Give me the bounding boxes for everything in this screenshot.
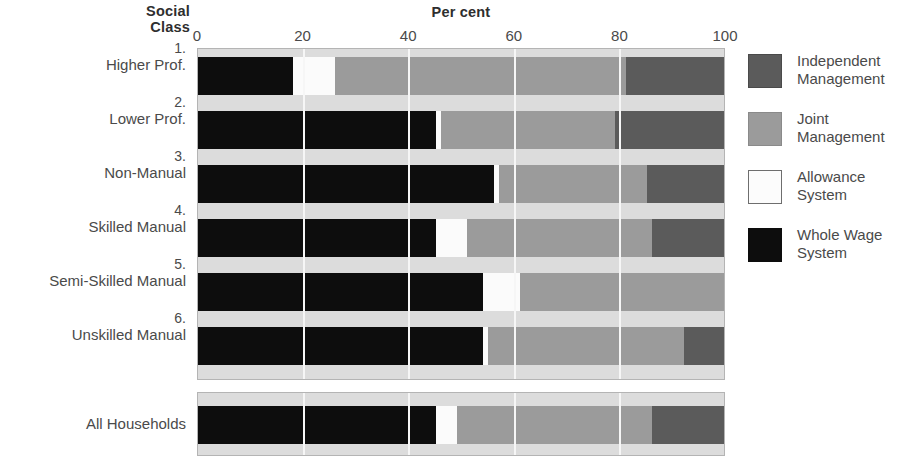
legend-label-indep-line2: Management xyxy=(797,70,907,88)
legend-label-joint-line1: Joint xyxy=(797,110,907,128)
legend-item-whole[interactable]: Whole WageSystem xyxy=(748,224,907,282)
row-number-6: 6. xyxy=(0,310,186,326)
legend-item-joint[interactable]: JointManagement xyxy=(748,108,907,166)
bar-unskilled-manual xyxy=(198,327,724,365)
allowance-swatch xyxy=(748,170,782,204)
whole-wage-segment xyxy=(198,111,436,149)
joint-management-segment xyxy=(520,273,725,311)
row-name-2: Lower Prof. xyxy=(109,110,186,127)
allowance-segment xyxy=(436,219,468,257)
independent-management-segment xyxy=(652,406,725,444)
bar-all-households xyxy=(198,406,724,444)
row-label-3: 3.Non-Manual xyxy=(0,148,186,182)
legend-label-whole-line2: System xyxy=(797,244,907,262)
row-number-4: 4. xyxy=(0,202,186,218)
row-name-1: Higher Prof. xyxy=(106,56,186,73)
legend-label-joint: JointManagement xyxy=(797,110,907,145)
independent-management-segment xyxy=(615,111,725,149)
joint-management-segment xyxy=(457,406,652,444)
allowance-segment xyxy=(293,57,335,95)
row-label-2: 2.Lower Prof. xyxy=(0,94,186,128)
row-name-6: Unskilled Manual xyxy=(72,326,186,343)
legend-item-allow[interactable]: AllowanceSystem xyxy=(748,166,907,224)
independent-management-segment xyxy=(647,165,725,203)
bar-higher-prof xyxy=(198,57,724,95)
row-number-3: 3. xyxy=(0,148,186,164)
legend-label-indep: IndependentManagement xyxy=(797,52,907,87)
joint-management-segment xyxy=(488,327,683,365)
legend-label-whole-line1: Whole Wage xyxy=(797,226,907,244)
legend-label-allow-line1: Allowance xyxy=(797,168,907,186)
x-tick-40: 40 xyxy=(400,27,417,44)
legend-label-indep-line1: Independent xyxy=(797,52,907,70)
independent-management-segment xyxy=(652,219,725,257)
x-tick-100: 100 xyxy=(712,27,737,44)
social-class-heading-line1: Social xyxy=(146,3,190,19)
main-plot-panel xyxy=(197,48,725,380)
legend-label-joint-line2: Management xyxy=(797,128,907,146)
row-name-3: Non-Manual xyxy=(104,164,186,181)
allowance-segment xyxy=(483,273,520,311)
whole-wage-segment xyxy=(198,406,436,444)
chart-legend: IndependentManagementJointManagementAllo… xyxy=(748,50,907,282)
allowance-segment xyxy=(436,406,457,444)
legend-item-indep[interactable]: IndependentManagement xyxy=(748,50,907,108)
row-label-5: 5.Semi-Skilled Manual xyxy=(0,256,186,290)
row-name-5: Semi-Skilled Manual xyxy=(49,272,186,289)
whole-wage-segment xyxy=(198,165,494,203)
whole-wage-segment xyxy=(198,57,293,95)
row-number-1: 1. xyxy=(0,40,186,56)
row-label-6: 6.Unskilled Manual xyxy=(0,310,186,344)
row-name-all-households: All Households xyxy=(86,415,186,432)
bar-skilled-manual xyxy=(198,219,724,257)
joint-management-segment xyxy=(441,111,615,149)
row-name-4: Skilled Manual xyxy=(88,218,186,235)
legend-label-allow-line2: System xyxy=(797,186,907,204)
row-label-all-households: All Households xyxy=(0,415,186,433)
bar-lower-prof xyxy=(198,111,724,149)
legend-label-allow: AllowanceSystem xyxy=(797,168,907,203)
x-tick-60: 60 xyxy=(505,27,522,44)
joint-management-segment xyxy=(467,219,652,257)
social-class-heading: Social Class xyxy=(60,4,190,35)
joint-swatch xyxy=(748,112,782,146)
independent-management-segment xyxy=(626,57,725,95)
bar-semi-skilled-manual xyxy=(198,273,724,311)
whole-wage-swatch xyxy=(748,228,782,262)
x-axis-title: Per cent xyxy=(197,4,725,20)
whole-wage-segment xyxy=(198,327,483,365)
row-label-1: 1.Higher Prof. xyxy=(0,40,186,74)
joint-management-segment xyxy=(335,57,625,95)
whole-wage-segment xyxy=(198,273,483,311)
whole-wage-segment xyxy=(198,219,436,257)
x-tick-80: 80 xyxy=(611,27,628,44)
row-number-2: 2. xyxy=(0,94,186,110)
all-households-plot-panel xyxy=(197,392,725,456)
indep-swatch xyxy=(748,54,782,88)
independent-management-segment xyxy=(684,327,725,365)
bar-non-manual xyxy=(198,165,724,203)
x-tick-20: 20 xyxy=(294,27,311,44)
legend-label-whole: Whole WageSystem xyxy=(797,226,907,261)
social-class-heading-line2: Class xyxy=(150,19,190,35)
joint-management-segment xyxy=(499,165,647,203)
stacked-bar-chart: Social Class Per cent 020406080100 1.Hig… xyxy=(0,0,907,458)
row-label-4: 4.Skilled Manual xyxy=(0,202,186,236)
row-number-5: 5. xyxy=(0,256,186,272)
x-tick-0: 0 xyxy=(193,27,201,44)
